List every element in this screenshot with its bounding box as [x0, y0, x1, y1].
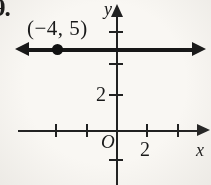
- x-axis-tick: [146, 124, 148, 137]
- graph-figure: 9. (−4, 5) y x O 2 2: [0, 0, 211, 185]
- x-axis-tick: [86, 124, 88, 137]
- x-axis-tick: [55, 124, 57, 137]
- y-axis-tick: [109, 31, 123, 33]
- origin-label: O: [101, 132, 115, 151]
- line-left-arrowhead-icon: [15, 42, 29, 56]
- y-axis-tick: [109, 63, 123, 65]
- plotted-point-marker: [52, 44, 63, 55]
- line-right-arrowhead-icon: [192, 42, 206, 56]
- y-axis-tick: [109, 159, 123, 161]
- y-axis-label: y: [104, 0, 112, 18]
- y-axis-arrowhead-icon: [111, 4, 123, 17]
- y-axis-tick: [109, 94, 123, 96]
- point-coordinate-label: (−4, 5): [27, 18, 88, 39]
- problem-number: 9.: [0, 0, 10, 20]
- x-axis-arrowhead-icon: [197, 124, 210, 136]
- x-axis-tick: [177, 124, 179, 137]
- x-axis-label: x: [196, 141, 204, 159]
- y-axis-tick-label: 2: [96, 84, 106, 104]
- x-axis-tick-label: 2: [140, 139, 150, 159]
